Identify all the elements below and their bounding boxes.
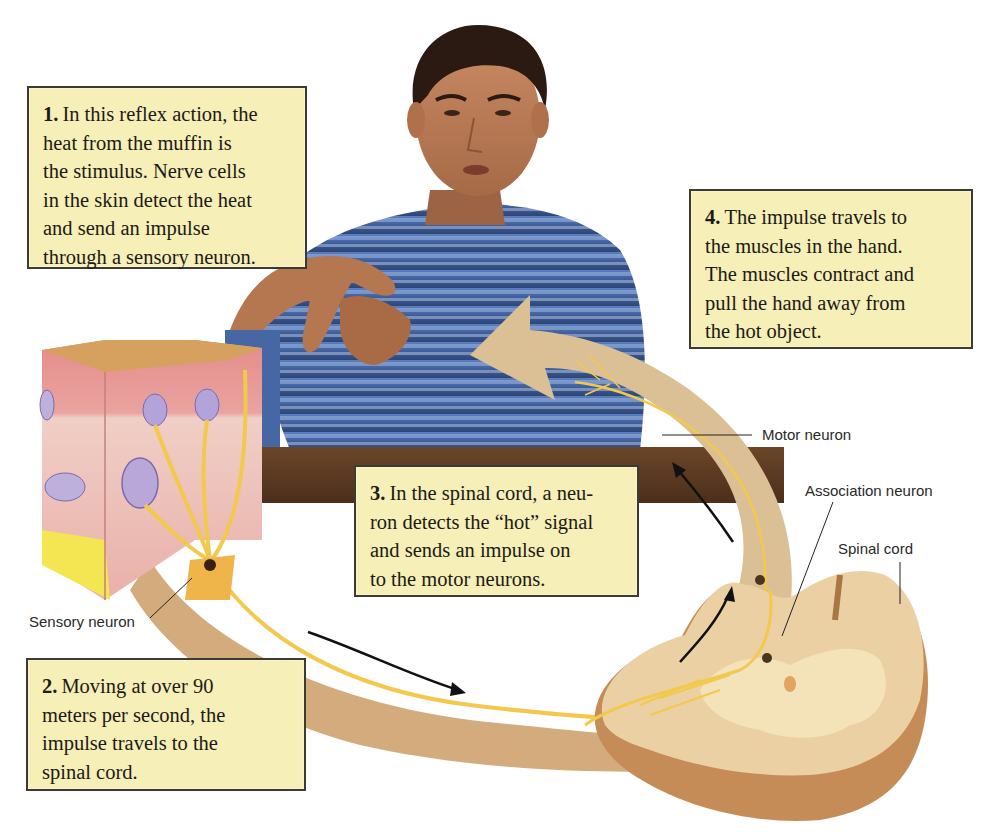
label-sensory-neuron: Sensory neuron [29, 613, 135, 630]
caption-number: 2. [42, 675, 57, 697]
caption-step-1: 1.In this reflex action, the heat from t… [27, 86, 307, 269]
caption-number: 3. [370, 482, 385, 504]
reflex-arc-figure: 1.In this reflex action, the heat from t… [0, 0, 992, 839]
label-motor-neuron: Motor neuron [762, 426, 851, 443]
caption-number: 4. [705, 206, 720, 228]
caption-step-2: 2.Moving at over 90 meters per second, t… [26, 658, 306, 791]
skin-cross-section [40, 340, 262, 600]
caption-step-4: 4.The impulse travels to the muscles in … [689, 189, 973, 349]
caption-number: 1. [43, 103, 58, 125]
label-association-neuron: Association neuron [805, 482, 933, 499]
spinal-cord-section [585, 571, 928, 821]
caption-step-3: 3.In the spinal cord, a neu- ron detects… [354, 465, 639, 597]
label-spinal-cord: Spinal cord [838, 540, 913, 557]
